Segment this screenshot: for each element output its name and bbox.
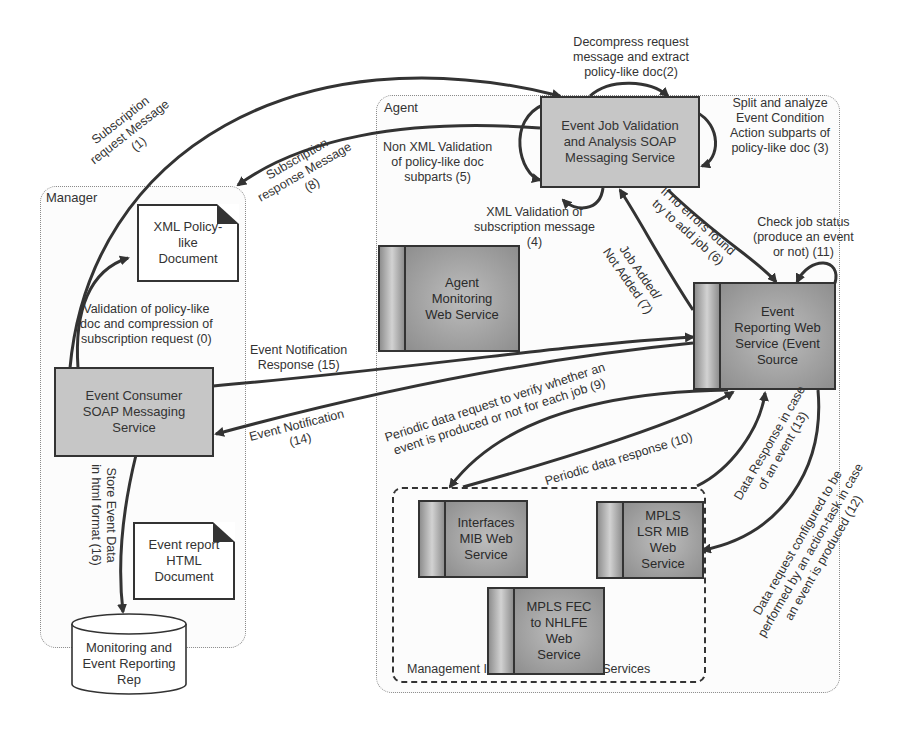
node-line: to NHLFE	[530, 615, 587, 631]
edge-label-11: Check job status(produce an eventor not)…	[753, 215, 854, 260]
node-line: Monitoring and	[70, 640, 188, 656]
edge-label-2: Decompress requestmessage and extractpol…	[573, 35, 689, 80]
node-line: Service	[464, 547, 507, 563]
node-line: like	[178, 235, 198, 251]
web-service-icon	[380, 247, 406, 350]
node-line: Event Job Validation	[561, 118, 679, 134]
node-line: XML Policy-	[154, 219, 223, 235]
node-line: MPLS FEC	[526, 599, 591, 615]
node-line: Service	[641, 556, 684, 572]
node-line: Event report	[149, 537, 220, 553]
web-service-icon	[489, 589, 515, 673]
edge-label-16: Store Event Datain html format (16)	[88, 464, 118, 565]
node-line: HTML	[166, 553, 201, 569]
node-line: SOAP Messaging	[83, 404, 185, 420]
node-line: Document	[158, 251, 217, 267]
edge-label-15: Event NotificationResponse (15)	[250, 343, 347, 373]
node-line: Interfaces	[457, 515, 514, 531]
node-line: Messaging Service	[565, 150, 675, 166]
node-line: Web	[650, 540, 677, 556]
node-line: Web Service	[425, 307, 498, 323]
edge-label-8: Subscriptionresponse Message(8)	[248, 127, 362, 219]
doc-fold-icon	[213, 522, 235, 542]
node-line: Event Reporting	[70, 656, 188, 672]
mpls-lsr-mib-web-service: MPLS LSR MIB Web Service	[596, 501, 704, 579]
node-line: Web	[546, 631, 573, 647]
node-line: and Analysis SOAP	[564, 134, 677, 150]
manager-label: Manager	[46, 190, 97, 205]
mpls-fec-nhlfe-web-service: MPLS FEC to NHLFE Web Service	[487, 587, 605, 675]
agent-monitoring-web-service: Agent Monitoring Web Service	[378, 245, 520, 352]
edge-label-0: Validation of policy-likedoc and compres…	[80, 302, 213, 347]
monitoring-repository: Monitoring and Event Reporting Rep	[70, 612, 188, 696]
node-line: MPLS	[645, 508, 680, 524]
event-consumer-service: Event Consumer SOAP Messaging Service	[54, 367, 214, 457]
agent-label: Agent	[384, 100, 418, 115]
edge-label-3: Split and analyzeEvent ConditionAction s…	[730, 96, 830, 156]
node-line: LSR MIB	[637, 524, 689, 540]
interfaces-mib-web-service: Interfaces MIB Web Service	[418, 500, 528, 578]
edge-label-5: Non XML Validationof policy-like docsubp…	[383, 140, 492, 185]
node-line: Service	[537, 647, 580, 663]
xml-policy-document: XML Policy- like Document	[137, 204, 239, 282]
node-line: Source	[757, 352, 798, 368]
event-job-validation-service: Event Job Validation and Analysis SOAP M…	[540, 96, 700, 188]
node-line: Rep	[70, 672, 188, 688]
node-line: Service (Event	[735, 336, 820, 352]
web-service-icon	[420, 502, 446, 576]
event-report-html-document: Event report HTML Document	[133, 522, 235, 600]
node-line: Monitoring	[432, 291, 493, 307]
web-service-icon	[598, 503, 624, 577]
node-line: MIB Web	[459, 531, 512, 547]
architecture-diagram: Manager Agent Management Information Ret…	[0, 0, 909, 752]
event-reporting-web-service: Event Reporting Web Service (Event Sourc…	[693, 282, 836, 390]
node-line: Event Consumer	[86, 388, 183, 404]
edge-label-14: Event Notification(14)	[248, 407, 350, 460]
node-line: Agent	[445, 275, 479, 291]
web-service-icon	[695, 284, 721, 388]
node-line: Reporting Web	[734, 320, 820, 336]
node-line: Event	[761, 304, 794, 320]
edge-label-1: Subscriptionrequest Message(1)	[78, 85, 181, 179]
doc-fold-icon	[217, 204, 239, 224]
node-line: Service	[112, 420, 155, 436]
node-line: Document	[154, 569, 213, 585]
edge-label-4: XML Validation ofsubscription message(4)	[474, 205, 595, 250]
